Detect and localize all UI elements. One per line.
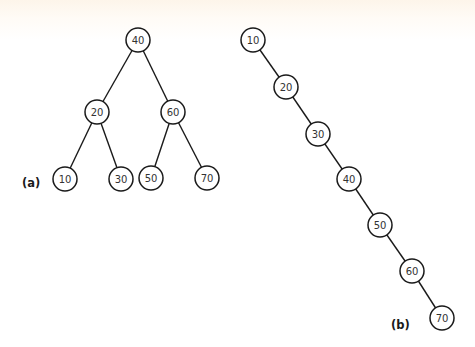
tree-panel-b-nodes: 10203040506070 bbox=[241, 28, 454, 330]
node-value: 20 bbox=[91, 107, 104, 118]
tree-node-30: 30 bbox=[109, 167, 133, 191]
node-value: 30 bbox=[312, 129, 325, 140]
node-value: 10 bbox=[247, 35, 260, 46]
node-value: 50 bbox=[145, 173, 158, 184]
tree-node-60: 60 bbox=[161, 100, 185, 124]
node-value: 40 bbox=[343, 174, 356, 185]
tree-node-10: 10 bbox=[53, 167, 77, 191]
panel-labels-layer: (a)(b) bbox=[22, 176, 410, 332]
node-value: 60 bbox=[406, 266, 419, 277]
node-value: 30 bbox=[115, 174, 128, 185]
tree-node-50: 50 bbox=[139, 166, 163, 190]
tree-node-40: 40 bbox=[337, 167, 361, 191]
panel-label-a: (a) bbox=[22, 176, 40, 190]
tree-node-60: 60 bbox=[400, 259, 424, 283]
node-value: 70 bbox=[201, 173, 214, 184]
node-value: 20 bbox=[280, 82, 293, 93]
node-value: 70 bbox=[436, 313, 449, 324]
tree-node-20: 20 bbox=[85, 100, 109, 124]
panel-label-b: (b) bbox=[391, 318, 410, 332]
nodes-layer: 4020601030507010203040506070 bbox=[53, 28, 454, 330]
node-value: 60 bbox=[167, 107, 180, 118]
tree-panel-a-nodes: 40206010305070 bbox=[53, 28, 219, 191]
tree-node-30: 30 bbox=[306, 122, 330, 146]
tree-node-20: 20 bbox=[274, 75, 298, 99]
node-value: 50 bbox=[374, 220, 387, 231]
tree-node-10: 10 bbox=[241, 28, 265, 52]
clipped-caption-strip bbox=[150, 342, 330, 347]
node-value: 40 bbox=[132, 35, 145, 46]
tree-node-50: 50 bbox=[368, 213, 392, 237]
node-value: 10 bbox=[59, 174, 72, 185]
binary-tree-diagram: 4020601030507010203040506070 (a)(b) bbox=[0, 0, 475, 347]
tree-node-40: 40 bbox=[126, 28, 150, 52]
tree-node-70: 70 bbox=[195, 166, 219, 190]
tree-node-70: 70 bbox=[430, 306, 454, 330]
